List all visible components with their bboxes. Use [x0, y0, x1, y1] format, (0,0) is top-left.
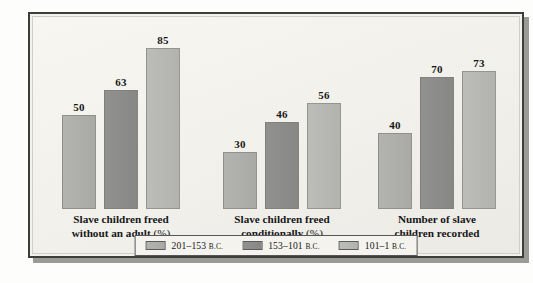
bar-item[interactable]: 56 — [307, 23, 341, 209]
bar-item[interactable]: 70 — [420, 23, 454, 209]
bar-item[interactable]: 30 — [223, 23, 257, 209]
bar-rect[interactable] — [62, 115, 96, 209]
legend-item-153-101-bc[interactable]: 153–101 B.C. — [242, 240, 320, 251]
bar-value-label: 70 — [431, 64, 442, 75]
bar-rect[interactable] — [104, 90, 138, 209]
bar-group-number-of-slave-children-recorded: 40 70 73 — [361, 23, 513, 209]
bar-group-slave-children-freed-conditionally: 30 46 56 — [207, 23, 357, 209]
legend-era: B.C. — [305, 242, 319, 251]
legend-era: B.C. — [392, 242, 406, 251]
bar-value-label: 50 — [73, 102, 84, 113]
bar-groups: 50 63 85 — [39, 23, 513, 209]
bar-item[interactable]: 46 — [265, 23, 299, 209]
legend-label: 201–153 B.C. — [172, 240, 224, 251]
category-label-line1: Number of slave — [398, 213, 476, 225]
bar-group-slave-children-freed-without-an-adult: 50 63 85 — [39, 23, 203, 209]
bar-rect[interactable] — [223, 152, 257, 209]
legend-swatch-icon — [242, 241, 262, 250]
chart-legend: 201–153 B.C. 153–101 B.C. 101–1 B.C. — [135, 235, 418, 256]
bar-item[interactable]: 40 — [378, 23, 412, 209]
figure-frame: 50 63 85 — [28, 12, 524, 258]
legend-range: 101–1 — [365, 240, 390, 251]
bar-value-label: 56 — [318, 90, 329, 101]
bar-item[interactable]: 63 — [104, 23, 138, 209]
bar-rect[interactable] — [420, 77, 454, 209]
bar-value-label: 85 — [157, 35, 168, 46]
legend-swatch-icon — [339, 241, 359, 250]
figure-inner-bevel: 50 63 85 — [32, 16, 520, 254]
bar-value-label: 73 — [473, 58, 484, 69]
figure-root: 50 63 85 — [0, 0, 533, 283]
bar-item[interactable]: 85 — [146, 23, 180, 209]
category-label-line1: Slave children freed — [234, 213, 329, 225]
bar-chart-plot-area: 50 63 85 — [33, 17, 519, 253]
bar-rect[interactable] — [378, 133, 412, 209]
bar-rect[interactable] — [462, 71, 496, 209]
legend-label: 101–1 B.C. — [365, 240, 407, 251]
bar-value-label: 30 — [234, 139, 245, 150]
legend-swatch-icon — [146, 241, 166, 250]
legend-era: B.C. — [209, 242, 223, 251]
legend-range: 153–101 — [268, 240, 303, 251]
legend-item-201-153-bc[interactable]: 201–153 B.C. — [146, 240, 224, 251]
legend-label: 153–101 B.C. — [268, 240, 320, 251]
bar-item[interactable]: 73 — [462, 23, 496, 209]
bar-item[interactable]: 50 — [62, 23, 96, 209]
legend-item-101-1-bc[interactable]: 101–1 B.C. — [339, 240, 407, 251]
bar-rect[interactable] — [307, 103, 341, 209]
legend-range: 201–153 — [172, 240, 207, 251]
category-label-line1: Slave children freed — [73, 213, 168, 225]
bar-rect[interactable] — [265, 122, 299, 209]
bar-value-label: 63 — [115, 77, 126, 88]
bar-rect[interactable] — [146, 48, 180, 209]
bar-value-label: 40 — [389, 120, 400, 131]
bar-value-label: 46 — [276, 109, 287, 120]
